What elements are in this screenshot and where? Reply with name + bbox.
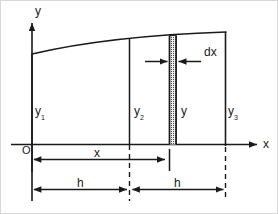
x-dimension-label: x xyxy=(94,147,100,159)
origin-label: O xyxy=(22,145,31,156)
ordinate-label-y1: y1 xyxy=(35,105,45,119)
ordinate-label-y3-subscript: 3 xyxy=(234,114,238,121)
ordinate-label-y2-subscript: 2 xyxy=(140,114,144,121)
h-dimension-label-left: h xyxy=(77,177,84,189)
element-strip xyxy=(170,35,177,144)
dx-label: dx xyxy=(204,46,217,58)
ordinate-label-y3: y3 xyxy=(228,105,238,119)
h-dimension-label-right: h xyxy=(174,177,181,189)
ordinate-label-y2: y2 xyxy=(134,105,144,119)
y-axis-label: y xyxy=(35,5,41,17)
x-dimension-line xyxy=(32,145,170,172)
x-axis-label: x xyxy=(263,138,269,150)
strip-height-label: y xyxy=(181,105,187,117)
ordinate-label-y1-subscript: 1 xyxy=(41,114,45,121)
figure-canvas: y x O y1 y2 y3 y dx x h h xyxy=(0,0,278,214)
